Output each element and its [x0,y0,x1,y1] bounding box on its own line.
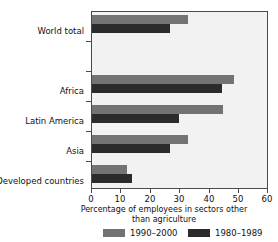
x-tick-30 [179,189,180,193]
bar-latin-america-1980-1989 [92,114,179,123]
legend-item-1990-2000: 1990–2000 [103,228,178,238]
plot-area [91,11,268,189]
x-tick-60 [267,189,268,193]
legend-swatch-icon-1980-1989 [188,229,210,237]
x-tick-50 [238,189,239,193]
bar-developed-countries-1990-2000 [92,165,127,174]
x-tick-10 [120,189,121,193]
category-axis-labels: World total Africa Latin America Asia De… [0,11,88,189]
bar-asia-1980-1989 [92,144,170,153]
legend-swatch-icon-1990-2000 [103,229,125,237]
bar-developed-countries-1980-1989 [92,174,132,183]
x-tick-20 [150,189,151,193]
x-tick-label-40: 40 [194,194,224,204]
category-label-developed-countries: Developed countries [0,177,84,186]
x-tick-label-10: 10 [105,194,135,204]
bar-latin-america-1990-2000 [92,105,223,114]
x-tick-label-20: 20 [135,194,165,204]
category-label-africa: Africa [60,87,84,96]
legend-label-1980-1989: 1980–1989 [215,228,263,238]
x-tick-40 [209,189,210,193]
chart-legend: 1990–2000 1980–1989 [0,228,278,242]
x-tick-label-60: 60 [252,194,278,204]
bar-world-total-1990-2000 [92,15,188,24]
category-label-asia: Asia [66,147,84,156]
bar-africa-1980-1989 [92,84,222,93]
legend-label-1990-2000: 1990–2000 [130,228,178,238]
category-label-latin-america: Latin America [25,117,84,126]
x-tick-label-30: 30 [164,194,194,204]
bar-africa-1990-2000 [92,75,234,84]
x-tick-label-50: 50 [223,194,253,204]
bar-asia-1990-2000 [92,135,188,144]
x-axis-title: Percentage of employees in sectors other… [50,205,278,224]
bar-world-total-1980-1989 [92,24,170,33]
x-tick-label-0: 0 [76,194,106,204]
bar-chart: World total Africa Latin America Asia De… [0,0,278,242]
x-tick-0 [91,189,92,193]
category-label-world-total: World total [38,27,85,36]
legend-item-1980-1989: 1980–1989 [188,228,263,238]
x-axis-title-line1: Percentage of employees in sectors other [50,205,278,215]
x-axis-title-line2: than agriculture [50,215,278,225]
